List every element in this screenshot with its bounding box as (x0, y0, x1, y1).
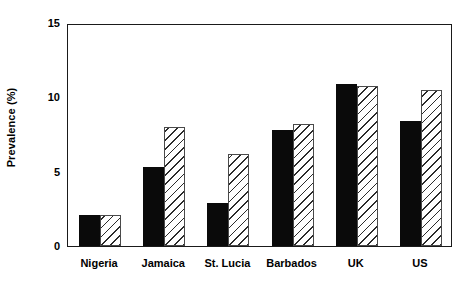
bar-barbados-s2 (293, 124, 314, 246)
bar-st-lucia-s1 (207, 203, 228, 246)
y-tick-label: 15 (8, 18, 60, 29)
y-tick-label: 5 (8, 167, 60, 178)
bar-us-s2 (421, 90, 442, 246)
bar-uk-s2 (357, 86, 378, 246)
bar-nigeria-s2 (100, 215, 121, 246)
chart-figure: Prevalence (%) 051015 NigeriaJamaicaSt. … (0, 0, 472, 287)
plot-area (67, 24, 452, 247)
y-tick-label: 0 (8, 241, 60, 252)
y-tick-label: 10 (8, 92, 60, 103)
bar-uk-s1 (336, 84, 357, 246)
bar-barbados-s1 (272, 130, 293, 246)
bar-jamaica-s1 (143, 167, 164, 246)
x-label-us: US (370, 258, 470, 269)
bar-nigeria-s1 (79, 215, 100, 246)
bar-st-lucia-s2 (228, 154, 249, 246)
bar-jamaica-s2 (164, 127, 185, 246)
bar-us-s1 (400, 121, 421, 246)
